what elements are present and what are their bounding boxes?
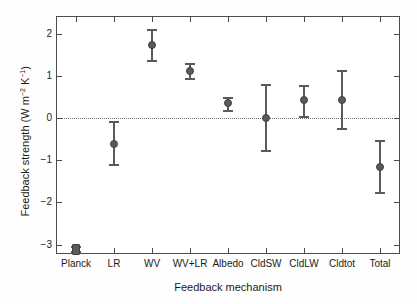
y-axis-title-prefix: Feedback strength (W m xyxy=(19,96,31,216)
data-marker xyxy=(72,244,80,255)
y-tick-label: 2 xyxy=(46,29,52,39)
error-bar-cap-lower xyxy=(109,164,119,166)
x-tick-label-cldlw: CldLW xyxy=(289,258,318,269)
y-tick-mark-right xyxy=(394,76,399,77)
error-bar-cap-lower xyxy=(147,60,157,62)
y-axis-title: Feedback strength (W m−2 K−1) xyxy=(19,22,32,260)
error-bar-cap-upper xyxy=(299,85,309,87)
x-tick-label-planck: Planck xyxy=(61,258,91,269)
x-tick-mark-top xyxy=(152,17,153,22)
y-axis-title-suffix: ) xyxy=(19,66,31,70)
x-tick-mark xyxy=(304,248,305,253)
x-tick-label-wv: WV xyxy=(144,258,160,269)
y-tick-label: 1 xyxy=(46,71,52,81)
x-tick-mark-top xyxy=(304,17,305,22)
y-tick-mark xyxy=(57,34,62,35)
x-tick-mark xyxy=(152,248,153,253)
y-tick-mark xyxy=(57,245,62,246)
error-bar-cap-upper xyxy=(185,63,195,65)
y-tick-label: 0 xyxy=(46,113,52,123)
x-tick-mark xyxy=(266,248,267,253)
error-bar-cap-lower xyxy=(299,116,309,118)
y-axis-title-exp1: −2 xyxy=(19,88,26,96)
data-marker xyxy=(300,96,308,104)
data-marker xyxy=(110,140,118,148)
y-tick-mark xyxy=(57,160,62,161)
error-bar-cap-lower xyxy=(375,192,385,194)
y-axis-title-exp2: −1 xyxy=(19,70,26,78)
error-bar-cap-upper xyxy=(261,84,271,86)
x-tick-mark-top xyxy=(266,17,267,22)
x-tick-mark xyxy=(190,248,191,253)
error-bar-cap-lower xyxy=(261,150,271,152)
x-tick-mark-top xyxy=(76,17,77,22)
error-bar-cap-upper xyxy=(109,121,119,123)
x-tick-mark-top xyxy=(342,17,343,22)
y-tick-label: −2 xyxy=(41,197,52,207)
x-tick-mark-top xyxy=(228,17,229,22)
y-axis-title-mid: K xyxy=(19,78,31,88)
error-bar-cap-lower xyxy=(223,110,233,112)
error-bar-cap-upper xyxy=(147,29,157,31)
data-marker xyxy=(262,114,270,122)
data-marker xyxy=(376,163,384,171)
y-tick-mark-right xyxy=(394,245,399,246)
x-tick-mark-top xyxy=(190,17,191,22)
x-tick-label-cldsw: CldSW xyxy=(250,258,281,269)
data-marker xyxy=(224,99,232,107)
y-tick-mark xyxy=(57,76,62,77)
zero-reference-line xyxy=(57,118,399,119)
error-bar-cap-upper xyxy=(375,140,385,142)
y-tick-mark-right xyxy=(394,202,399,203)
data-marker xyxy=(338,96,346,104)
y-tick-mark-right xyxy=(394,34,399,35)
data-marker xyxy=(186,67,194,75)
error-bar-cap-upper xyxy=(337,70,347,72)
x-tick-mark-top xyxy=(380,17,381,22)
x-tick-label-cldtot: Cldtot xyxy=(329,258,355,269)
x-tick-mark xyxy=(228,248,229,253)
data-marker xyxy=(148,41,156,49)
x-tick-mark-top xyxy=(114,17,115,22)
y-tick-label: −1 xyxy=(41,155,52,165)
feedback-strength-chart: 210−1−2−3 PlanckLRWVWV+LRAlbedoCldSWCldL… xyxy=(0,0,417,304)
x-tick-mark xyxy=(114,248,115,253)
x-tick-mark xyxy=(342,248,343,253)
y-tick-mark-right xyxy=(394,118,399,119)
y-tick-mark xyxy=(57,202,62,203)
plot-area: 210−1−2−3 PlanckLRWVWV+LRAlbedoCldSWCldL… xyxy=(56,16,400,254)
y-tick-label: −3 xyxy=(41,240,52,250)
error-bar-cap-lower xyxy=(185,78,195,80)
x-tick-label-wv-lr: WV+LR xyxy=(173,258,208,269)
x-tick-label-lr: LR xyxy=(108,258,121,269)
x-tick-mark xyxy=(380,248,381,253)
x-tick-label-albedo: Albedo xyxy=(212,258,243,269)
x-axis-title: Feedback mechanism xyxy=(56,281,400,293)
y-tick-mark-right xyxy=(394,160,399,161)
error-bar-cap-lower xyxy=(337,128,347,130)
x-tick-label-total: Total xyxy=(369,258,390,269)
y-tick-mark xyxy=(57,118,62,119)
